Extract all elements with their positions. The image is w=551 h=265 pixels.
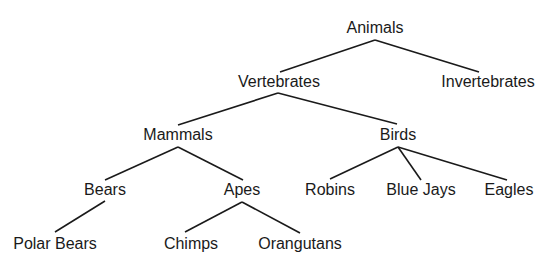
edge-bears-to-polar-bears [55, 201, 105, 232]
edge-apes-to-chimps [185, 202, 242, 232]
edge-mammals-to-bears [105, 147, 178, 180]
tree-labels: Animals Vertebrates Invertebrates Mammal… [13, 19, 534, 252]
edge-birds-to-blue-jays [398, 147, 421, 180]
node-invertebrates: Invertebrates [441, 73, 534, 90]
edge-apes-to-orangutans [242, 202, 300, 233]
node-birds: Birds [380, 126, 416, 143]
tree-edges [55, 40, 507, 233]
edge-animals-to-invertebrates [375, 40, 479, 72]
edge-birds-to-robins [330, 147, 398, 179]
edge-animals-to-vertebrates [280, 40, 375, 72]
node-mammals: Mammals [143, 126, 212, 143]
node-chimps: Chimps [164, 235, 218, 252]
edge-vertebrates-to-mammals [178, 93, 278, 125]
edge-mammals-to-apes [178, 147, 243, 180]
edge-birds-to-eagles [398, 147, 507, 180]
node-bears: Bears [84, 181, 126, 198]
edge-vertebrates-to-birds [278, 93, 397, 124]
taxonomy-tree: Animals Vertebrates Invertebrates Mammal… [0, 0, 551, 265]
node-animals: Animals [347, 19, 404, 36]
node-eagles: Eagles [485, 181, 534, 198]
node-polar-bears: Polar Bears [13, 235, 97, 252]
node-apes: Apes [224, 181, 260, 198]
node-robins: Robins [305, 181, 355, 198]
node-orangutans: Orangutans [258, 235, 342, 252]
node-blue-jays: Blue Jays [386, 181, 455, 198]
node-vertebrates: Vertebrates [238, 73, 320, 90]
